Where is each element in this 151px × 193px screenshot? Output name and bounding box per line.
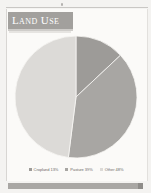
pie-chart (8, 34, 144, 160)
legend-label-cropland: Cropland 13% (34, 168, 59, 172)
page-footer-bar (8, 183, 143, 189)
page-top-rule (6, 7, 148, 8)
legend-label-other: Other 48% (105, 168, 124, 172)
pie-chart-svg (8, 34, 144, 160)
page-footer-tab (138, 183, 143, 189)
legend-item: Pasture 39% (65, 168, 92, 172)
pie-chart-canvas (8, 34, 144, 160)
document-page: Land Use Cropland 13% Pasture 39% Other … (0, 0, 151, 193)
page-title-banner: Land Use (8, 12, 73, 29)
legend-swatch-cropland (29, 168, 32, 171)
legend-item: Other 48% (100, 168, 124, 172)
pie-slice-group (15, 36, 137, 158)
legend-swatch-other (100, 168, 103, 171)
pie-slice-other (15, 36, 76, 158)
legend-item: Cropland 13% (29, 168, 59, 172)
chart-legend: Cropland 13% Pasture 39% Other 48% (8, 165, 144, 174)
scan-ghost-line (9, 31, 71, 33)
legend-label-pasture: Pasture 39% (70, 168, 92, 172)
page-title: Land Use (12, 15, 59, 26)
legend-swatch-pasture (65, 168, 68, 171)
scan-artifact-speck (61, 3, 63, 6)
